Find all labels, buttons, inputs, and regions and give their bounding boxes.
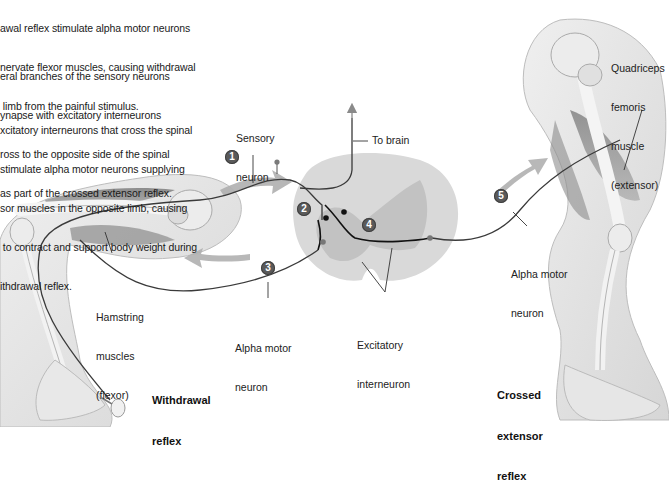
label-withdrawal-reflex: Withdrawal reflex bbox=[152, 367, 211, 475]
step-badge-5: 5 bbox=[494, 189, 508, 203]
label-crossed-extensor-reflex: Crossed extensor reflex bbox=[497, 362, 543, 484]
spinal-cord-section bbox=[293, 153, 458, 281]
step-badge-1: 1 bbox=[225, 150, 239, 164]
label-to-brain: To brain bbox=[372, 134, 409, 147]
step-badge-2: 2 bbox=[297, 202, 311, 216]
label-quadriceps: Quadriceps femoris muscle (extensor) bbox=[611, 36, 665, 218]
label-alpha-motor-left: Alpha motor neuron bbox=[235, 316, 292, 420]
label-alpha-motor-right: Alpha motor neuron bbox=[511, 242, 568, 346]
arrow-to-extensor bbox=[498, 158, 548, 193]
label-sensory-neuron: Sensory neuron bbox=[236, 106, 275, 210]
step-badge-3: 3 bbox=[261, 261, 275, 275]
step-badge-4: 4 bbox=[362, 218, 376, 232]
label-hamstring: Hamstring muscles (flexor) bbox=[96, 285, 144, 428]
label-excitatory-interneuron: Excitatory interneuron bbox=[357, 313, 410, 417]
